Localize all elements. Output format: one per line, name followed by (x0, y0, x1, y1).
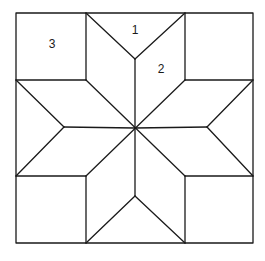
label-piece-3: 3 (49, 37, 56, 51)
label-piece-2: 2 (158, 62, 165, 76)
eight-point-star-diagram: 1 2 3 (0, 0, 265, 261)
label-piece-1: 1 (132, 23, 139, 37)
